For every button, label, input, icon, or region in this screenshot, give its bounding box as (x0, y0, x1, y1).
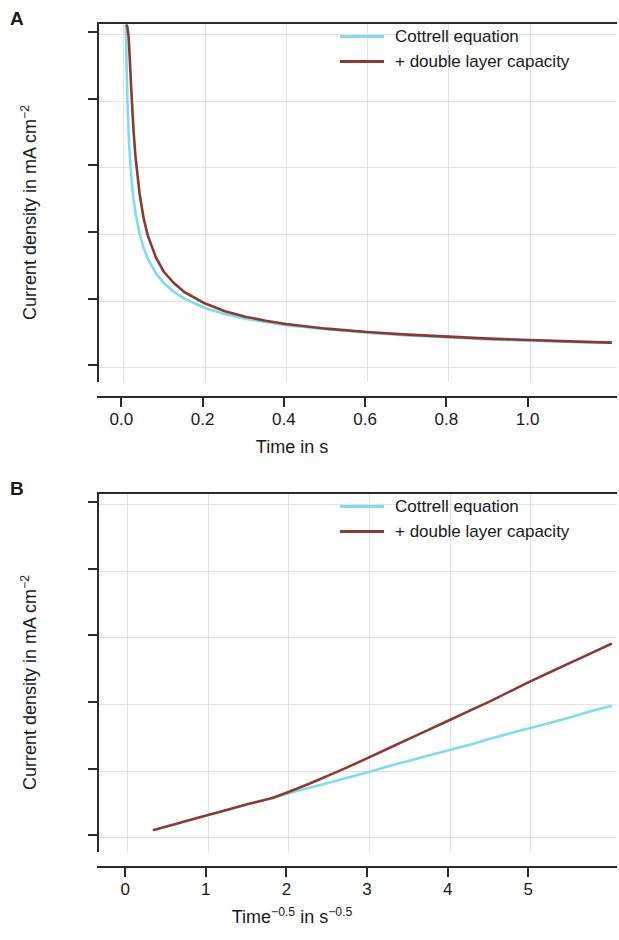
panel-b-curves (99, 494, 619, 854)
x-tick-mark (120, 398, 122, 407)
x-tick-mark (527, 868, 529, 877)
y-tick-mark (88, 298, 97, 300)
legend-swatch-cottrell (340, 35, 384, 38)
legend-label-double-layer: + double layer capacity (395, 522, 569, 542)
legend-item-double-layer: + double layer capacity (340, 519, 569, 544)
x-tick-label: 5 (524, 880, 533, 900)
x-tick-label: 0.2 (191, 410, 215, 430)
y-tick-mark (88, 634, 97, 636)
y-tick-mark (88, 768, 97, 770)
x-tick-label: 0.6 (353, 410, 377, 430)
legend-swatch-cottrell (340, 505, 384, 508)
x-tick-mark (205, 868, 207, 877)
panel-b-x-axis-line (97, 866, 617, 868)
x-tick-label: 2 (282, 880, 291, 900)
panel-a-y-axis-label-text: Current density in mA cm (20, 119, 40, 320)
legend-label-cottrell: Cottrell equation (395, 497, 519, 517)
legend-label-double-layer: + double layer capacity (395, 52, 569, 72)
x-tick-label: 0.8 (435, 410, 459, 430)
legend-swatch-double-layer (340, 60, 384, 63)
panel-a-y-axis-label-exponent: −2 (18, 105, 32, 119)
panel-a-legend: Cottrell equation + double layer capacit… (340, 24, 569, 74)
panel-b-x-axis-label: Time−0.5 in s−0.5 (97, 907, 487, 928)
legend-label-cottrell: Cottrell equation (395, 27, 519, 47)
panel-a-plot-frame (97, 22, 617, 382)
legend-swatch-double-layer (340, 530, 384, 533)
x-tick-label: 1.0 (516, 410, 540, 430)
panel-b: B 01020304050012345 Current density in m… (0, 470, 588, 940)
y-tick-mark (88, 164, 97, 166)
y-tick-mark (88, 834, 97, 836)
y-tick-mark (88, 568, 97, 570)
panel-b-y-axis-label-exponent: −2 (18, 575, 32, 589)
x-tick-mark (447, 868, 449, 877)
panel-a-x-axis-label-text: Time (256, 437, 295, 457)
y-tick-mark (88, 98, 97, 100)
x-tick-label: 3 (362, 880, 371, 900)
panel-b-plot-frame (97, 492, 617, 852)
x-tick-label: 0 (120, 880, 129, 900)
x-tick-label: 0.4 (272, 410, 296, 430)
x-tick-mark (283, 398, 285, 407)
series-line-double-layer-capacity (154, 644, 611, 830)
series-line-cottrell-equation (272, 706, 611, 798)
x-tick-label: 0.0 (110, 410, 134, 430)
x-tick-mark (366, 868, 368, 877)
legend-item-cottrell: Cottrell equation (340, 494, 569, 519)
x-tick-mark (445, 398, 447, 407)
panel-b-y-axis-label: Current density in mA cm−2 (20, 518, 41, 848)
x-tick-mark (124, 868, 126, 877)
panel-a-y-axis-label: Current density in mA cm−2 (20, 48, 41, 378)
legend-item-double-layer: + double layer capacity (340, 49, 569, 74)
x-tick-mark (202, 398, 204, 407)
panel-b-y-axis-label-text: Current density in mA cm (20, 589, 40, 790)
panel-b-letter: B (10, 478, 24, 500)
x-tick-mark (527, 398, 529, 407)
panel-a-x-axis-label-mid: in s (300, 437, 328, 457)
x-tick-mark (364, 398, 366, 407)
panel-a-x-axis-line (97, 396, 617, 398)
panel-b-x-axis-label-exponent2: −0.5 (328, 905, 352, 919)
y-tick-mark (88, 231, 97, 233)
panel-a-curves (99, 24, 619, 384)
y-tick-mark (88, 501, 97, 503)
panel-a-x-axis-label: Time in s (97, 437, 487, 458)
panel-b-x-axis-label-text: Time (232, 907, 271, 927)
y-tick-mark (88, 701, 97, 703)
x-tick-label: 1 (201, 880, 210, 900)
y-tick-mark (88, 31, 97, 33)
y-tick-mark (88, 364, 97, 366)
legend-item-cottrell: Cottrell equation (340, 24, 569, 49)
panel-b-legend: Cottrell equation + double layer capacit… (340, 494, 569, 544)
panel-a: A 010203040500.00.20.40.60.81.0 Current … (0, 0, 588, 470)
panel-b-x-axis-label-mid: in s (300, 907, 328, 927)
panel-a-letter: A (10, 8, 24, 30)
panel-b-x-axis-label-exponent: −0.5 (271, 905, 295, 919)
x-tick-label: 4 (443, 880, 452, 900)
x-tick-mark (285, 868, 287, 877)
